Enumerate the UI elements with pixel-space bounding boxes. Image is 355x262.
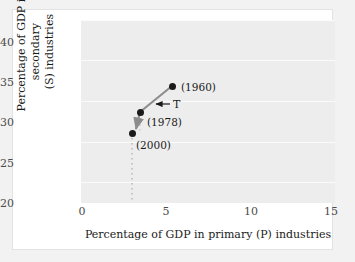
annotation-label-t: T [173,99,180,110]
chart-vector-overlay [0,0,355,262]
data-point-label-2000: (2000) [136,140,171,151]
chart-plot-frame: 40 35 30 25 20 0 5 10 15 Percentage of G… [0,0,355,262]
data-point-1978 [137,109,144,116]
data-point-1960 [169,83,176,90]
data-point-label-1978: (1978) [147,117,182,128]
data-point-label-1960: (1960) [181,82,216,93]
data-point-2000 [129,130,136,137]
